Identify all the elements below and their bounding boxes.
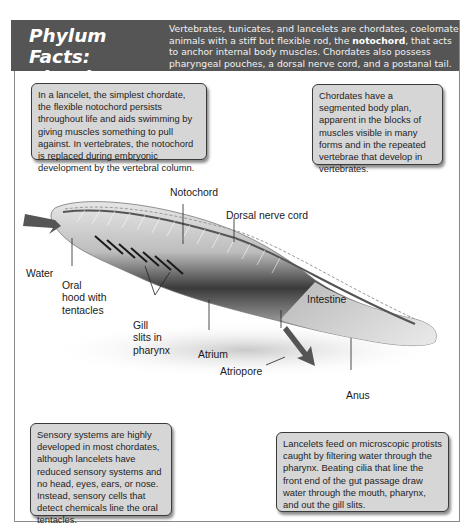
label-gill-line-1: Gill <box>133 320 170 332</box>
label-notochord: Notochord <box>170 187 218 199</box>
label-gill-slits: Gill slits in pharynx <box>133 320 170 357</box>
callout-sensory: Sensory systems are highly developed in … <box>30 423 172 516</box>
label-intestine: Intestine <box>307 294 346 306</box>
label-oral-hood-line-1: Oral <box>62 280 106 292</box>
callout-notochord: In a lancelet, the simplest chordate, th… <box>31 83 207 160</box>
label-gill-line-3: pharynx <box>133 345 170 357</box>
label-dorsal-nerve-cord: Dorsal nerve cord <box>226 210 308 222</box>
label-oral-hood: Oral hood with tentacles <box>62 280 106 317</box>
label-atrium: Atrium <box>198 349 228 361</box>
label-oral-hood-line-3: tentacles <box>62 305 106 317</box>
callout-segmented: Chordates have a segmented body plan, ap… <box>312 84 443 165</box>
label-water: Water <box>26 268 53 280</box>
intro-text: Vertebrates, tunicates, and lancelets ar… <box>169 23 459 69</box>
label-anus: Anus <box>346 390 370 402</box>
label-oral-hood-line-2: hood with <box>62 292 106 304</box>
intro-bold-term: notochord <box>352 35 405 46</box>
title-line-1: Phylum Facts: <box>29 25 169 67</box>
header-band: Phylum Facts: Chordata Vertebrates, tuni… <box>11 20 459 71</box>
callout-feeding: Lancelets feed on microscopic protists c… <box>276 432 449 512</box>
label-atriopore: Atriopore <box>220 366 262 378</box>
label-gill-line-2: slits in <box>133 332 170 344</box>
page-title: Phylum Facts: Chordata <box>29 25 169 88</box>
